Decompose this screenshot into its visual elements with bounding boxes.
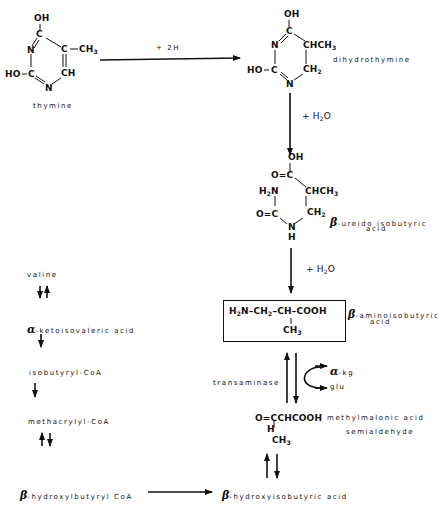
semialdehyde-formula: O=CCHCOOH	[255, 414, 322, 423]
reagent-label: + H2O	[306, 265, 335, 275]
compound-name-thymine: thymine	[33, 103, 73, 110]
atom: C	[271, 66, 278, 75]
atom: C	[286, 27, 293, 36]
atom: CHCH3	[303, 41, 336, 51]
atom: CH2	[307, 208, 326, 218]
compound-name-line2: acid	[366, 226, 387, 233]
atom: CH3	[79, 45, 98, 55]
atom: C	[36, 30, 43, 39]
compound-name-ketoisovaleric: α-ketoisovaleric acid	[27, 320, 135, 336]
atom: O=C	[256, 210, 278, 219]
compound-name-methacrylyl-coa: methacrylyl-CoA	[28, 419, 110, 426]
atom: OH	[34, 14, 50, 23]
atom: O=C	[271, 171, 293, 180]
atom: H	[267, 425, 275, 434]
arrow-thymine-to-dihydrothymine	[100, 58, 240, 60]
atom: CHCH3	[305, 187, 338, 197]
compound-name-hydroxylbutyryl-coa: β-hydroxylbutyryl CoA	[20, 486, 133, 502]
compound-name-hydroxyisobutyric: β-hydroxyisobutyric acid	[222, 486, 348, 502]
atom: HO	[247, 66, 263, 75]
compound-name-line2: semialdehyde	[346, 429, 414, 436]
compound-name-dihydrothymine: dihydrothymine	[333, 57, 411, 64]
aminoisobutyric-formula: H2N–CH2–CH–COOH	[229, 307, 327, 317]
product-glu: glu	[330, 384, 346, 391]
compound-name-methylmalonic: methylmalonic acid	[327, 415, 425, 422]
product-alpha-kg: α-kg	[330, 362, 354, 378]
atom: N	[45, 84, 53, 93]
atom: N	[286, 80, 294, 89]
atom: C	[28, 70, 35, 79]
atom: N	[271, 41, 279, 50]
atom: C	[61, 45, 68, 54]
atom: N	[288, 223, 296, 232]
reagent-label: + 2H	[156, 45, 180, 52]
atom: OH	[288, 153, 304, 162]
compound-name-isobutyryl-coa: isobutyryl-CoA	[29, 370, 103, 377]
enzyme-label-transaminase: transaminase	[213, 380, 280, 387]
semialdehyde-branch: CH3	[272, 436, 291, 446]
compound-name-valine: valine	[27, 272, 58, 279]
reagent-label: + H2O	[302, 112, 331, 122]
compound-name-line2: acid	[370, 319, 391, 326]
atom: H2N	[259, 187, 279, 197]
atom: CH	[61, 69, 76, 78]
compound-name-aminoisobutyric: β-aminoisobutyric	[348, 305, 439, 321]
aminoisobutyric-branch: CH3	[283, 326, 302, 336]
atom: HO	[5, 70, 21, 79]
atom: CH2	[303, 65, 322, 75]
atom: OH	[284, 10, 300, 19]
atom: H	[288, 233, 296, 242]
atom: N	[27, 46, 35, 55]
